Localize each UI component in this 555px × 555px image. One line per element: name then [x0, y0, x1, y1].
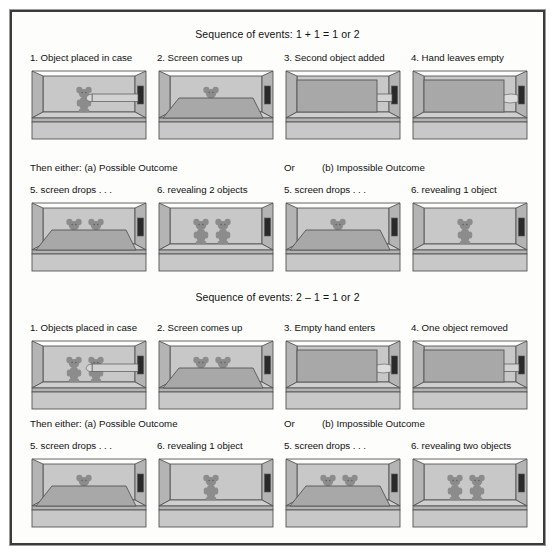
outcome-panel-addition-2 — [157, 200, 275, 272]
outcome-caption-subtraction-2: 6. revealing 1 object — [157, 440, 243, 451]
step-caption-subtraction-2: 2. Screen comes up — [157, 322, 242, 333]
step-panel-subtraction-3 — [284, 338, 402, 410]
step-caption-subtraction-4: 4. One object removed — [411, 322, 508, 333]
outcome-caption-subtraction-4: 6. revealing two objects — [411, 440, 511, 451]
outcome-caption-subtraction-3: 5. screen drops . . . — [284, 440, 366, 451]
figure-frame: Sequence of events: 1 + 1 = 1 or 21. Obj… — [10, 10, 545, 545]
divider-impossible-label-subtraction: (b) Impossible Outcome — [322, 418, 425, 429]
divider-or-label-subtraction: Or — [284, 418, 295, 429]
outcome-panel-subtraction-1 — [30, 456, 148, 528]
step-caption-addition-1: 1. Object placed in case — [30, 52, 132, 63]
step-panel-subtraction-4 — [411, 338, 529, 410]
step-caption-addition-2: 2. Screen comes up — [157, 52, 242, 63]
step-caption-subtraction-3: 3. Empty hand enters — [284, 322, 375, 333]
outcome-panel-subtraction-3 — [284, 456, 402, 528]
step-caption-addition-4: 4. Hand leaves empty — [411, 52, 504, 63]
outcome-caption-addition-2: 6. revealing 2 objects — [157, 184, 247, 195]
step-panel-addition-1 — [30, 68, 148, 140]
section-title-subtraction: Sequence of events: 2 – 1 = 1 or 2 — [12, 291, 543, 303]
outcome-caption-addition-4: 6. revealing 1 object — [411, 184, 497, 195]
divider-impossible-label-addition: (b) Impossible Outcome — [322, 162, 425, 173]
step-panel-addition-2 — [157, 68, 275, 140]
outcome-panel-addition-4 — [411, 200, 529, 272]
step-caption-subtraction-1: 1. Objects placed in case — [30, 322, 137, 333]
figure-canvas: Sequence of events: 1 + 1 = 1 or 21. Obj… — [12, 12, 543, 543]
outcome-caption-addition-3: 5. screen drops . . . — [284, 184, 366, 195]
step-panel-subtraction-2 — [157, 338, 275, 410]
step-panel-subtraction-1 — [30, 338, 148, 410]
outcome-caption-addition-1: 5. screen drops . . . — [30, 184, 112, 195]
outcome-panel-subtraction-2 — [157, 456, 275, 528]
step-caption-addition-3: 3. Second object added — [284, 52, 385, 63]
step-panel-addition-4 — [411, 68, 529, 140]
outcome-panel-subtraction-4 — [411, 456, 529, 528]
outcome-panel-addition-3 — [284, 200, 402, 272]
outcome-panel-addition-1 — [30, 200, 148, 272]
section-title-addition: Sequence of events: 1 + 1 = 1 or 2 — [12, 28, 543, 40]
divider-possible-label-addition: Then either: (a) Possible Outcome — [30, 162, 178, 173]
step-panel-addition-3 — [284, 68, 402, 140]
divider-or-label-addition: Or — [284, 162, 295, 173]
divider-possible-label-subtraction: Then either: (a) Possible Outcome — [30, 418, 178, 429]
outcome-caption-subtraction-1: 5. screen drops . . . — [30, 440, 112, 451]
